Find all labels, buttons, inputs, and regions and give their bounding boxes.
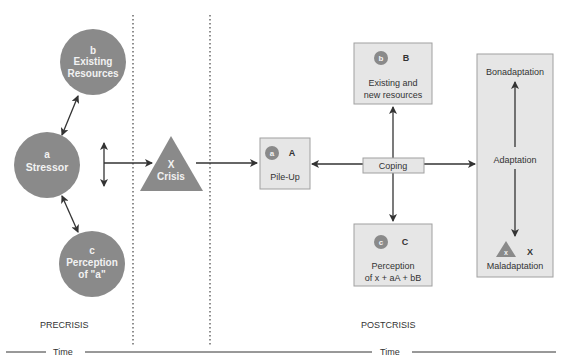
node-stressor: a Stressor xyxy=(14,132,80,198)
node-letter: c xyxy=(89,245,95,256)
box-adaptation: Bonadaptation Adaptation x X Maladaptati… xyxy=(477,54,553,277)
time-label-left: Time xyxy=(53,347,73,357)
adaptation-label: Adaptation xyxy=(493,155,536,165)
node-existing-resources: b Existing Resources xyxy=(60,29,126,95)
box-label-line1: Existing and xyxy=(368,78,417,88)
node-label-line1: Perception xyxy=(66,257,118,268)
box-letter: X xyxy=(527,247,533,257)
box-label-line1: Perception xyxy=(371,261,414,271)
badge-letter: a xyxy=(270,149,275,158)
box-coping: Coping xyxy=(363,158,424,173)
box-resources: b B Existing and new resources xyxy=(354,43,432,104)
crisis-label: Crisis xyxy=(157,171,185,182)
node-letter: b xyxy=(90,45,96,56)
node-perception: c Perception of "a" xyxy=(59,231,125,297)
maladaptation-label: Maladaptation xyxy=(487,261,544,271)
arrow-stressor-resources xyxy=(62,96,78,135)
box-pileup: a A Pile-Up xyxy=(260,138,310,189)
coping-label: Coping xyxy=(379,161,408,171)
box-letter: C xyxy=(402,237,409,247)
precrisis-label: PRECRISIS xyxy=(40,320,89,330)
double-abcx-diagram: b Existing Resources a Stressor c Percep… xyxy=(0,0,567,363)
node-letter: a xyxy=(44,149,50,160)
badge-letter: b xyxy=(379,54,384,63)
postcrisis-label: POSTCRISIS xyxy=(361,320,416,330)
node-label-line2: of "a" xyxy=(78,269,106,280)
node-label: Stressor xyxy=(26,161,69,173)
node-label-line1: Existing xyxy=(74,56,113,67)
box-label-line2: new resources xyxy=(364,90,423,100)
box-letter: B xyxy=(403,53,410,63)
badge-letter: x xyxy=(504,249,508,256)
box-letter: A xyxy=(289,148,296,158)
bonadaptation-label: Bonadaptation xyxy=(486,67,544,77)
badge-letter: c xyxy=(379,238,384,247)
box-perception: c C Perception of x + aA + bB xyxy=(354,224,432,286)
arrow-stressor-perception xyxy=(62,196,78,232)
time-label-right: Time xyxy=(380,347,400,357)
box-label: Pile-Up xyxy=(270,172,300,182)
crisis-letter: X xyxy=(168,159,175,170)
box-label-line2: of x + aA + bB xyxy=(365,273,422,283)
node-label-line2: Resources xyxy=(67,68,119,79)
